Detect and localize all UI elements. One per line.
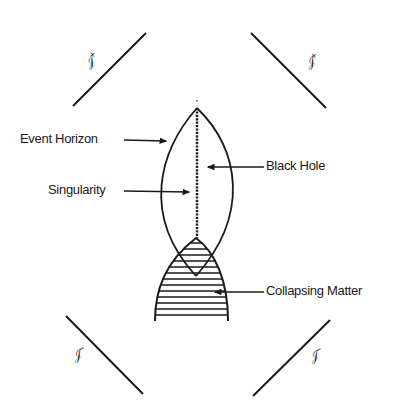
singularity-label: Singularity [48, 182, 105, 197]
penrose-diagram [0, 0, 405, 417]
scri-plus-right-line [251, 33, 326, 108]
scri-plus-left-line [73, 33, 146, 106]
event-horizon-pointer [124, 140, 166, 141]
black-hole-label: Black Hole [266, 158, 325, 173]
event-horizon-right-curve [196, 108, 233, 276]
collapsing-matter-label: Collapsing Matter [266, 283, 362, 298]
singularity-pointer [124, 191, 189, 192]
event-horizon-label: Event Horizon [20, 131, 98, 146]
